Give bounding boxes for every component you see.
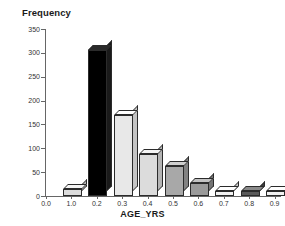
y-tick-label: 250 bbox=[18, 73, 40, 80]
bar-side-face bbox=[133, 105, 138, 191]
bar-side-face bbox=[107, 40, 112, 191]
y-tick bbox=[41, 53, 45, 54]
x-axis-title: AGE_YRS bbox=[0, 209, 285, 219]
y-tick-label: 100 bbox=[18, 145, 40, 152]
y-tick bbox=[41, 124, 45, 125]
y-tick bbox=[41, 148, 45, 149]
y-tick-label: 300 bbox=[18, 49, 40, 56]
y-tick-label: 200 bbox=[18, 97, 40, 104]
y-tick-label: 350 bbox=[18, 26, 40, 33]
x-tick bbox=[46, 196, 47, 199]
bar-front-face bbox=[266, 191, 285, 196]
x-tick-label: 0.6 bbox=[185, 200, 211, 207]
x-tick bbox=[97, 196, 98, 199]
y-tick bbox=[41, 196, 45, 197]
x-tick bbox=[275, 196, 276, 199]
bar bbox=[165, 161, 184, 196]
bar bbox=[114, 110, 133, 196]
x-tick-label: 0.5 bbox=[160, 200, 186, 207]
bar-front-face bbox=[88, 50, 107, 196]
x-tick-label: 0.7 bbox=[211, 200, 237, 207]
bar-top-face bbox=[266, 186, 285, 191]
x-tick-label: 0.4 bbox=[135, 200, 161, 207]
x-tick bbox=[122, 196, 123, 199]
x-tick bbox=[173, 196, 174, 199]
y-tick bbox=[41, 172, 45, 173]
bar bbox=[190, 178, 209, 196]
bar-front-face bbox=[190, 183, 209, 196]
y-axis-line bbox=[45, 29, 46, 196]
bar-front-face bbox=[63, 189, 82, 196]
bar-top-face bbox=[215, 186, 239, 191]
x-tick-label: 0.3 bbox=[109, 200, 135, 207]
bar bbox=[215, 186, 234, 196]
bar bbox=[266, 186, 285, 196]
x-tick-label: 0.9 bbox=[262, 200, 285, 207]
x-tick bbox=[71, 196, 72, 199]
x-tick bbox=[148, 196, 149, 199]
y-tick-label: 50 bbox=[18, 169, 40, 176]
x-axis-line bbox=[45, 196, 281, 197]
bar-front-face bbox=[215, 191, 234, 196]
x-tick bbox=[249, 196, 250, 199]
bar-front-face bbox=[139, 154, 158, 196]
x-tick bbox=[198, 196, 199, 199]
y-tick-label: 0 bbox=[18, 193, 40, 200]
chart-title: Frequency bbox=[22, 7, 71, 18]
y-tick bbox=[41, 101, 45, 102]
bar bbox=[139, 149, 158, 196]
bar bbox=[63, 184, 82, 196]
bar-front-face bbox=[165, 166, 184, 196]
x-tick-label: 0.0 bbox=[33, 200, 59, 207]
x-tick-label: 1.0 bbox=[58, 200, 84, 207]
x-tick-label: 0.8 bbox=[236, 200, 262, 207]
bar-front-face bbox=[114, 115, 133, 196]
x-tick bbox=[224, 196, 225, 199]
bar bbox=[88, 45, 107, 196]
frequency-histogram: Frequency 050100150200250300350 0.01.00.… bbox=[0, 0, 285, 226]
y-tick bbox=[41, 29, 45, 30]
x-tick-label: 0.2 bbox=[84, 200, 110, 207]
y-tick bbox=[41, 77, 45, 78]
y-tick-label: 150 bbox=[18, 121, 40, 128]
bar-front-face bbox=[241, 191, 260, 196]
bar bbox=[241, 186, 260, 196]
